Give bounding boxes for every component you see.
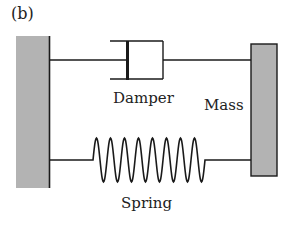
panel-label: (b)	[11, 6, 34, 22]
spring-label: Spring	[121, 196, 172, 211]
mass-block	[251, 44, 277, 176]
fixed-wall	[16, 36, 50, 188]
damper-label: Damper	[113, 91, 174, 106]
mass-label: Mass	[204, 98, 244, 113]
damper	[50, 41, 251, 80]
spring	[50, 138, 251, 182]
mass-spring-damper-diagram: (b) Damper Mass Spring	[0, 0, 293, 228]
